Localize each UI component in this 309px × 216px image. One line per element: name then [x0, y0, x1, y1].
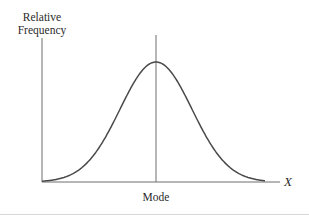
y-axis-label-line2: Frequency: [18, 24, 67, 37]
distribution-curve: [42, 62, 265, 181]
y-axis-label-line1: Relative: [23, 11, 61, 23]
x-axis-label: X: [283, 174, 293, 189]
chart: Relative Frequency X Mode: [0, 0, 309, 216]
chart-svg: Relative Frequency X Mode: [0, 0, 309, 216]
mode-label: Mode: [143, 191, 170, 203]
